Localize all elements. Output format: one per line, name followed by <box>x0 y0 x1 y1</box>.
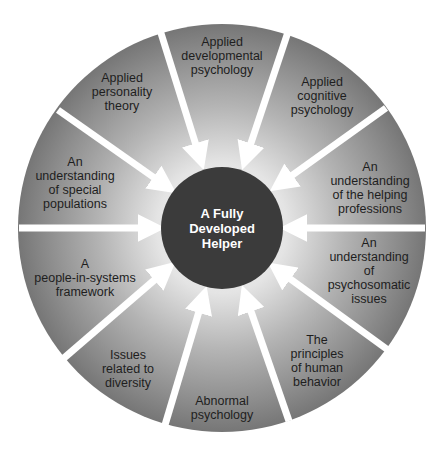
segment-label-special-populations: An understanding of special populations <box>35 155 114 211</box>
segment-label-personality: Applied personality theory <box>92 71 152 113</box>
segment-label-developmental: Applied developmental psychology <box>181 35 262 77</box>
segment-label-abnormal: Abnormal psychology <box>191 394 254 422</box>
segment-label-psychosomatic: An understanding of psychosomatic issues <box>328 236 411 306</box>
segment-label-human-behavior: The principles of human behavior <box>291 333 344 389</box>
center-label: A Fully Developed Helper <box>189 206 255 251</box>
segment-label-helping-professions: An understanding of the helping professi… <box>330 160 409 216</box>
helper-wheel-diagram: A Fully Developed Helper Applied develop… <box>0 0 441 453</box>
segment-label-diversity: Issues related to diversity <box>102 348 154 390</box>
segment-label-cognitive: Applied cognitive psychology <box>291 75 354 117</box>
segment-label-people-in-systems: A people-in-systems framework <box>34 257 135 299</box>
